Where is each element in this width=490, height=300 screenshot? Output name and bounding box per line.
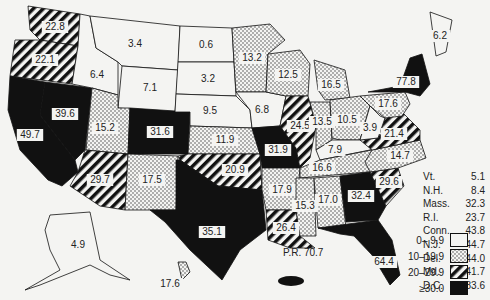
state-value-label: 11.9 [216,134,235,145]
state-value-label: 35.1 [202,226,222,237]
state-value-label: 31.6 [150,126,170,137]
state-value-label: 10.5 [337,114,357,125]
legend-item: 20–29.9 [408,264,468,280]
state-value-label: 3.4 [128,38,142,49]
state-value-label: 9.5 [203,105,217,116]
small-state-row: R.I.23.7 [423,211,485,225]
state-value-label: 17.6 [160,278,180,289]
state-value-label: 20.9 [225,164,245,175]
legend-swatch-black [450,281,468,295]
state-value-label: 22.8 [45,21,65,32]
state-hi [178,262,190,280]
state-value-label: 16.5 [321,79,341,90]
state-value-label: 21.4 [384,128,404,139]
state-value-label: 77.8 [396,76,416,87]
state-value-label: 14.7 [390,150,410,161]
state-value-label: 29.6 [379,176,399,187]
state-value-label: 12.5 [278,69,298,80]
state-value-label: 13.5 [312,116,332,127]
legend-swatch-dots [450,249,468,263]
state-value-label: 6.4 [90,69,104,80]
state-value-label: 17.0 [318,194,338,205]
state-value-label: 3.9 [363,122,377,133]
puerto-rico-label: P.R. 70.7 [283,247,323,258]
state-value-label: 17.6 [378,98,398,109]
puerto-rico-shape [278,276,304,286]
state-value-label: 4.9 [71,239,85,250]
state-value-label: 24.5 [290,120,310,131]
legend-item: 10–19.9 [408,248,468,264]
state-value-label: 3.2 [201,73,215,84]
state-value-label: 7.9 [328,144,342,155]
legend-item: ≥30.0 [408,280,468,296]
state-value-label: 31.9 [268,144,288,155]
state-value-label: 64.4 [374,256,394,267]
state-value-label: 39.6 [55,108,75,119]
state-value-label: 26.4 [276,222,296,233]
state-value-label: 7.1 [143,82,157,93]
state-value-label: 0.6 [199,39,213,50]
small-state-row: Mass.32.3 [423,197,485,211]
state-value-label: 17.5 [142,174,162,185]
state-fl [318,220,400,285]
state-value-label: 6.8 [255,104,269,115]
state-value-label: 15.2 [95,122,115,133]
map-legend: 0– 9.9 10–19.9 20–29.9 ≥30.0 [408,232,468,296]
legend-swatch-stripes [450,265,468,279]
state-value-label: 22.1 [35,54,55,65]
state-value-label: 49.7 [20,129,40,140]
state-value-label: 16.6 [312,162,332,173]
state-value-label: 6.2 [433,30,447,41]
small-state-row: N.H.8.4 [423,184,485,198]
legend-swatch-white [450,233,468,247]
state-value-label: 32.4 [351,190,371,201]
state-value-label: 15.3 [295,200,315,211]
legend-item: 0– 9.9 [408,232,468,248]
state-value-label: 17.9 [272,184,292,195]
small-state-row: Vt.5.1 [423,170,485,184]
state-value-label: 13.2 [242,52,262,63]
state-value-label: 29.7 [90,174,110,185]
